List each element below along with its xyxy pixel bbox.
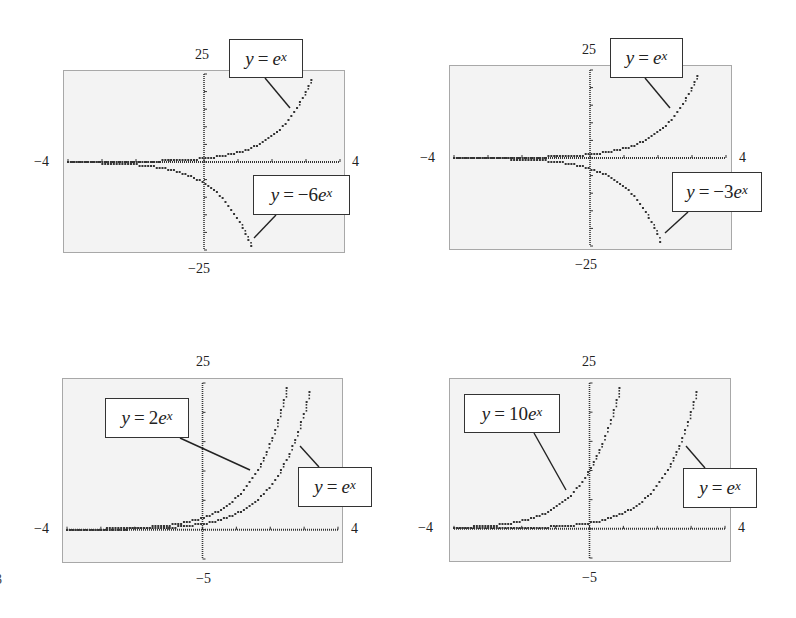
cropped-edge-glyph: 3 — [0, 572, 2, 588]
equation-label: y=10ex — [464, 394, 560, 433]
equation-label: y=ex — [683, 468, 757, 508]
leader-line — [686, 446, 705, 468]
tick-label-xmax: 4 — [738, 521, 745, 535]
tick-label-ymin: −5 — [582, 571, 597, 585]
leader-line — [534, 433, 566, 490]
tick-label-ymax: 25 — [582, 355, 596, 369]
tick-label-xmin: −4 — [418, 521, 433, 535]
plot-canvas-4 — [0, 0, 796, 618]
